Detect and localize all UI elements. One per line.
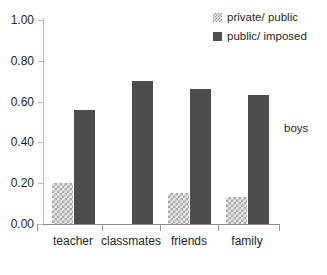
y-axis-tick-label: 0.80 bbox=[0, 55, 34, 67]
y-axis-tick-label: 0.00 bbox=[0, 218, 34, 230]
plot-area bbox=[44, 20, 276, 224]
y-axis-tick-label: 0.20 bbox=[0, 177, 34, 189]
x-axis-separator bbox=[37, 225, 38, 231]
bar bbox=[190, 89, 211, 224]
x-axis-category-label: family bbox=[212, 234, 282, 248]
x-axis-separator bbox=[102, 225, 103, 231]
y-axis-tick bbox=[38, 224, 44, 225]
bar bbox=[248, 95, 269, 224]
chart-annotation-boys: boys bbox=[284, 122, 308, 134]
y-axis-tick-label: 1.00 bbox=[0, 14, 34, 26]
bar-chart: private/ public public/ imposed boys 1.0… bbox=[0, 0, 327, 275]
bar bbox=[74, 110, 95, 224]
x-axis-line bbox=[37, 224, 280, 225]
bar bbox=[168, 193, 189, 224]
bar bbox=[226, 197, 247, 224]
y-axis-tick-label: 0.60 bbox=[0, 96, 34, 108]
bar bbox=[52, 183, 73, 224]
bar bbox=[132, 81, 153, 224]
x-axis-separator bbox=[218, 225, 219, 231]
x-axis-separator bbox=[160, 225, 161, 231]
x-axis-separator bbox=[279, 225, 280, 231]
y-axis-tick-label: 0.40 bbox=[0, 136, 34, 148]
